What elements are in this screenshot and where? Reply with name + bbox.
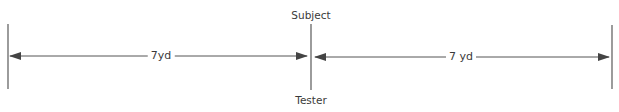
- right-distance-label: 7 yd: [446, 51, 476, 62]
- left-distance-label: 7yd: [148, 50, 175, 61]
- tester-label: Tester: [295, 95, 326, 106]
- subject-label: Subject: [291, 10, 330, 21]
